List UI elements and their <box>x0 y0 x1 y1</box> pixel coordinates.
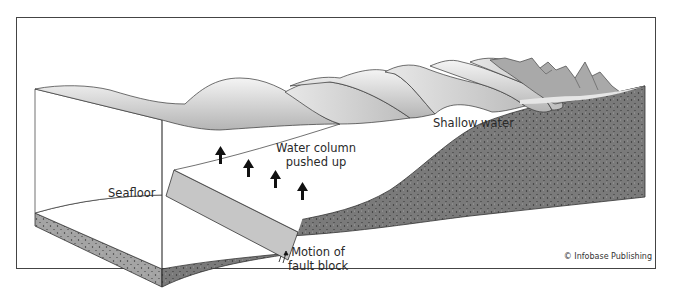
label-fault-motion: Motion of fault block <box>288 245 348 273</box>
label-fault-motion-line1: Motion of <box>288 245 348 259</box>
copyright-credit: © Infobase Publishing <box>564 252 652 261</box>
label-water-column-line2: pushed up <box>276 155 356 169</box>
label-water-column: Water column pushed up <box>276 141 356 169</box>
tsunami-diagram: Seafloor Water column pushed up Shallow … <box>0 0 674 288</box>
label-seafloor: Seafloor <box>108 186 155 200</box>
label-fault-motion-line2: fault block <box>288 259 348 273</box>
label-shallow-water: Shallow water <box>433 116 514 130</box>
label-water-column-line1: Water column <box>276 141 356 155</box>
